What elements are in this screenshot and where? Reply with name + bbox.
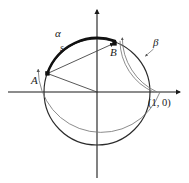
- chord-group: [48, 44, 114, 93]
- radius-origin-to-a: [48, 74, 98, 93]
- point-a-marker: [45, 71, 49, 75]
- unit-circle-diagram: α s A B β (1, 0): [0, 0, 189, 183]
- arc-length-label: s: [60, 43, 64, 53]
- alpha-arc-group: [38, 69, 160, 132]
- beta-leader-line: [146, 49, 154, 56]
- alpha-arc: [38, 69, 160, 132]
- point-b-label: B: [110, 46, 117, 58]
- point-one-zero-label: (1, 0): [148, 97, 171, 109]
- beta-arc-inner: [120, 41, 154, 92]
- beta-arc-group: [120, 38, 157, 92]
- point-b-marker: [112, 41, 116, 45]
- chord-a-to-b: [48, 44, 114, 74]
- unit-circle-svg: α s A B β (1, 0): [0, 0, 189, 183]
- point-a-label: A: [30, 74, 38, 86]
- arc-length-s-path: [48, 38, 116, 73]
- alpha-label: α: [55, 27, 61, 39]
- beta-label: β: [152, 36, 159, 48]
- beta-arc-outer: [122, 38, 157, 92]
